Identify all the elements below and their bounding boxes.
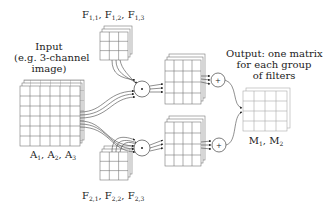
filter-stack-group-1: [100, 26, 132, 60]
conv-to-intermediate-connectors: [150, 84, 163, 151]
sum-operator-top: +: [211, 73, 225, 87]
input-channels-label: A1, A2, A3: [22, 149, 84, 163]
input-channel-a1: [20, 86, 80, 146]
intermediate-stack-bottom: [165, 116, 205, 166]
svg-text:+: +: [216, 142, 222, 150]
sum-to-output-connectors: [225, 80, 242, 145]
filter-to-conv-connectors: [112, 60, 138, 152]
output-matrices-label: M1, M2: [243, 135, 289, 149]
convolve-operator-top: [134, 81, 150, 97]
output-matrix-stack: [243, 88, 290, 131]
sum-operator-bottom: +: [212, 138, 226, 152]
input-title: Input (e.g. 3-channel image): [14, 41, 84, 74]
input-matrix-stack: [20, 80, 84, 146]
convolve-operator-bottom: [134, 140, 150, 156]
output-title: Output: one matrix for each group of fil…: [226, 48, 322, 81]
svg-text:+: +: [215, 77, 221, 85]
filters-group-1-label: F1,1, F1,2, F1,3: [82, 9, 144, 23]
filters-group-2-label: F2,1, F2,2, F2,3: [82, 190, 144, 204]
intermediate-stack-top: [165, 54, 205, 104]
